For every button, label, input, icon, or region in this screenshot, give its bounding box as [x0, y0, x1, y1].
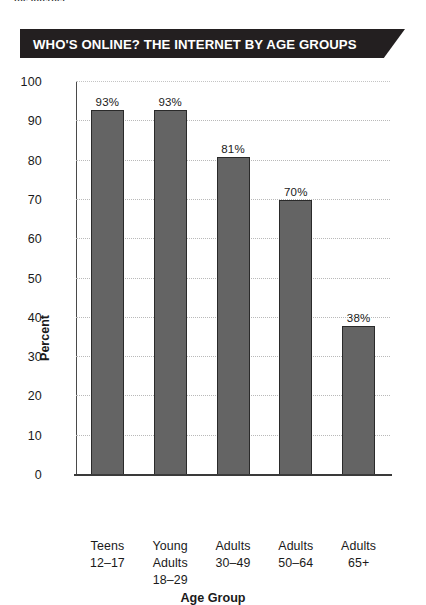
x-axis-title: Age Group	[0, 591, 426, 605]
x-tick-label-5: Adults65+	[327, 538, 390, 572]
x-tick-label-line: 50–64	[264, 555, 327, 572]
y-tick-60: 60	[0, 232, 42, 246]
bar-value-label-2: 93%	[158, 96, 182, 108]
gridline-100	[76, 81, 390, 82]
title-banner: WHO'S ONLINE? THE INTERNET BY AGE GROUPS	[20, 29, 405, 58]
y-tick-20: 20	[0, 389, 42, 403]
y-tick-50: 50	[0, 272, 42, 286]
x-tick-label-line: Teens	[76, 538, 139, 555]
x-tick-label-line: Adults	[327, 538, 390, 555]
y-tick-90: 90	[0, 114, 42, 128]
bar-value-label-5: 38%	[347, 312, 371, 324]
x-tick-label-line: Adults	[139, 555, 202, 572]
plot-area: 93%93%81%70%38%	[76, 82, 390, 475]
y-tick-30: 30	[0, 350, 42, 364]
x-tick-label-3: Adults30–49	[202, 538, 265, 572]
bar-5: 38%	[342, 326, 375, 475]
bar-2: 93%	[154, 110, 187, 475]
x-tick-label-line: 18–29	[139, 572, 202, 589]
bar-value-label-3: 81%	[221, 143, 245, 155]
x-axis-line	[74, 474, 392, 476]
bar-value-label-4: 70%	[284, 186, 308, 198]
y-tick-80: 80	[0, 154, 42, 168]
x-tick-label-line: 12–17	[76, 555, 139, 572]
bar-1: 93%	[91, 110, 124, 475]
y-axis-line	[76, 82, 77, 475]
page-title: WHO'S ONLINE? THE INTERNET BY AGE GROUPS	[33, 36, 357, 51]
y-tick-100: 100	[0, 75, 42, 89]
bar-value-label-1: 93%	[96, 96, 120, 108]
x-tick-label-2: YoungAdults18–29	[139, 538, 202, 589]
y-tick-0: 0	[0, 468, 42, 482]
bar-4: 70%	[279, 200, 312, 475]
bar-3: 81%	[217, 157, 250, 475]
y-tick-40: 40	[0, 311, 42, 325]
x-tick-label-line: Young	[139, 538, 202, 555]
x-tick-label-line: Adults	[264, 538, 327, 555]
y-tick-10: 10	[0, 429, 42, 443]
y-tick-70: 70	[0, 193, 42, 207]
bar-chart: Percent 0102030405060708090100 93%93%81%…	[0, 58, 426, 564]
x-tick-label-line: 65+	[327, 555, 390, 572]
x-tick-label-1: Teens12–17	[76, 538, 139, 572]
clipped-running-header: the internet	[14, 0, 65, 1]
x-tick-label-line: Adults	[202, 538, 265, 555]
x-tick-label-line: 30–49	[202, 555, 265, 572]
x-tick-label-4: Adults50–64	[264, 538, 327, 572]
